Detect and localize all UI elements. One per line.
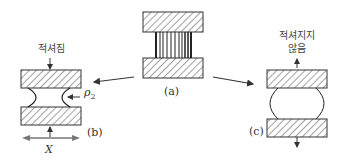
arrow-to-b [94,77,134,82]
panel-c-label: (c) [249,125,264,138]
radius-label: ρ2 [84,86,96,101]
top-plate [143,12,203,32]
panel-b-figure [21,58,81,141]
panel-a-label: (a) [164,85,179,98]
concave-meniscus-left [28,88,36,107]
bottom-plate [267,119,327,137]
bottom-plate [143,58,203,78]
liquid-columns [156,32,191,58]
panel-a-figure [143,12,203,78]
convex-meniscus-right [316,88,324,119]
panel-b-label: (b) [87,126,103,139]
top-plate [21,70,81,88]
diagram-canvas [0,0,346,161]
panel-b-caption: 적셔짐 [32,40,70,55]
panel-c-caption-line2: 않음 [274,40,320,55]
width-label: X [45,143,53,156]
convex-meniscus-left [270,88,278,119]
panel-c-figure [267,59,327,147]
arrow-to-c [213,77,253,84]
top-plate [267,70,327,88]
bottom-plate [21,107,81,125]
